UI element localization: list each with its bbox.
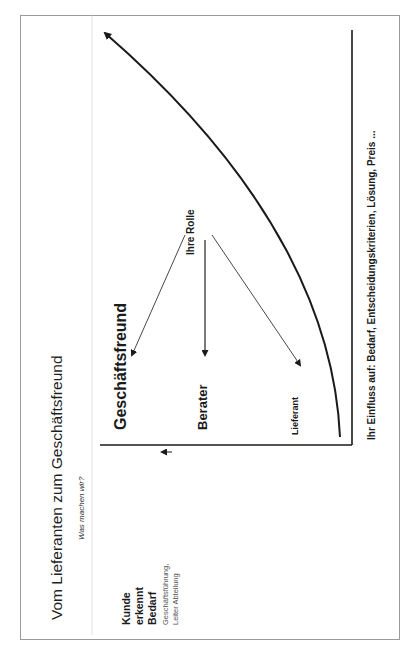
arrow-to-lieferant <box>212 235 300 365</box>
role-lieferant: Lieferant <box>290 397 300 435</box>
arrow-to-geschaeftsfreund <box>132 235 185 355</box>
influence-text: Ihr Einfluss auf: Bedarf, Entscheidungsk… <box>366 130 377 440</box>
slide: Vom Lieferanten zum Geschäftsfreund Was … <box>0 0 420 655</box>
role-heading: Ihre Rolle <box>185 209 196 255</box>
role-berater: Berater <box>195 384 210 430</box>
influence-curve <box>105 33 340 437</box>
diagram-graphics <box>0 0 420 655</box>
role-geschaeftsfreund: Geschäftsfreund <box>112 303 130 430</box>
